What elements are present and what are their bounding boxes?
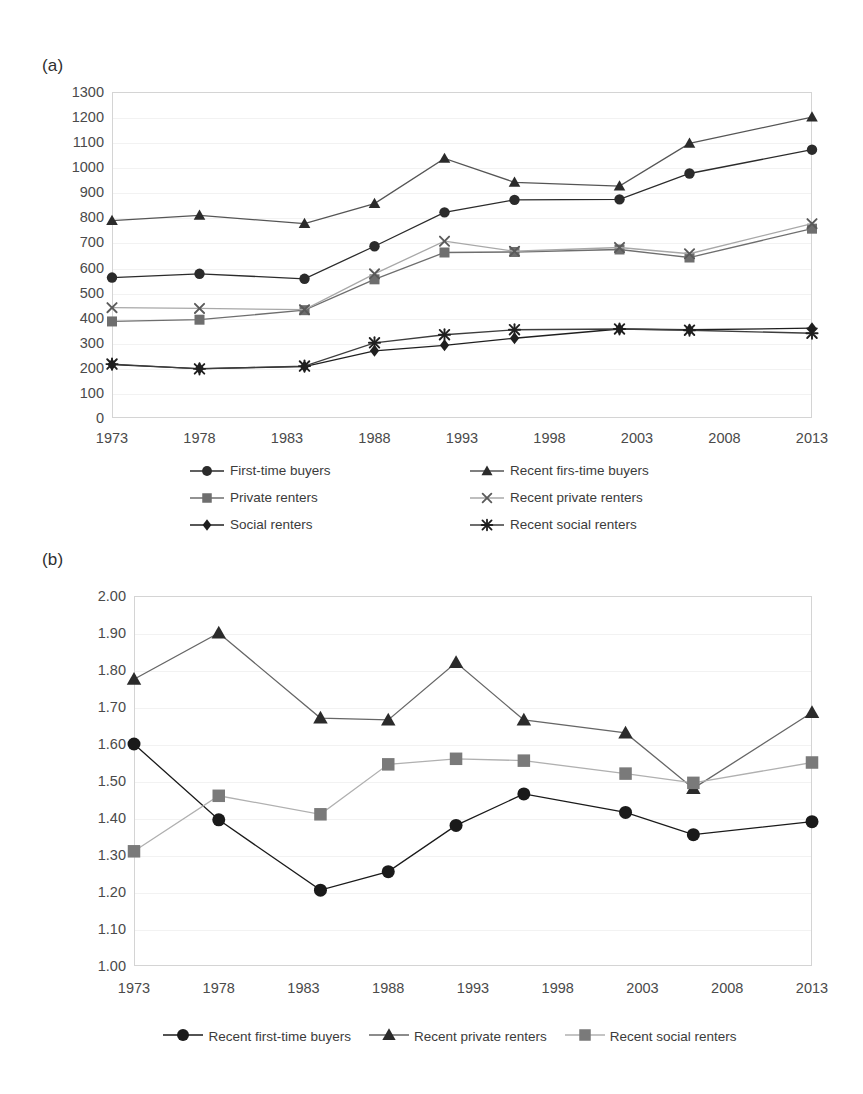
legend-marker-star-icon	[470, 518, 504, 532]
series-2	[128, 753, 819, 858]
y-axis-tick-label: 1.10	[78, 921, 126, 937]
series-0	[128, 738, 819, 897]
series-3	[107, 219, 816, 314]
y-axis-tick-label: 1.80	[78, 662, 126, 678]
legend-item[interactable]: Private renters	[190, 490, 470, 505]
legend-item[interactable]: Recent firs-time buyers	[470, 463, 750, 478]
y-axis-tick-label: 1.60	[78, 736, 126, 752]
x-axis-tick-label: 1993	[446, 430, 478, 446]
x-axis-tick-label: 2008	[711, 980, 743, 996]
legend-marker-diamond-icon	[190, 518, 224, 532]
x-axis-tick-label: 2003	[621, 430, 653, 446]
legend-label: First-time buyers	[230, 463, 331, 478]
legend-item[interactable]: Recent social renters	[470, 517, 750, 532]
x-axis-tick-label: 1998	[533, 430, 565, 446]
x-axis-tick-label: 1973	[96, 430, 128, 446]
y-axis-tick-label: 300	[60, 335, 104, 351]
y-axis-tick-label: 800	[60, 209, 104, 225]
y-axis-tick-label: 1.00	[78, 958, 126, 974]
x-axis-tick-label: 2008	[708, 430, 740, 446]
series-layer	[134, 596, 812, 966]
legend-item[interactable]: Recent social renters	[565, 1028, 737, 1044]
legend-label: Social renters	[230, 517, 313, 532]
x-axis-tick-label: 1988	[372, 980, 404, 996]
y-axis-tick-label: 600	[60, 260, 104, 276]
y-axis-tick-label: 1.70	[78, 699, 126, 715]
y-axis-tick-label: 400	[60, 310, 104, 326]
series-1	[127, 626, 820, 794]
x-axis-tick-label: 1983	[287, 980, 319, 996]
legend-item[interactable]: Recent first-time buyers	[163, 1028, 351, 1044]
y-axis-tick-label: 1300	[60, 84, 104, 100]
x-axis-tick-label: 1978	[203, 980, 235, 996]
legend-marker-circle-icon	[190, 464, 224, 478]
legend-marker-circle-icon	[163, 1028, 203, 1044]
chart-a-legend: First-time buyersRecent firs-time buyers…	[190, 463, 750, 532]
y-axis-tick-label: 1.30	[78, 847, 126, 863]
series-4	[107, 322, 816, 374]
y-axis-tick-label: 200	[60, 360, 104, 376]
x-axis-tick-label: 1998	[542, 980, 574, 996]
x-axis-tick-label: 2013	[796, 430, 828, 446]
legend-label: Recent social renters	[610, 1029, 737, 1044]
legend-marker-x-icon	[470, 491, 504, 505]
x-axis-tick-label: 1973	[118, 980, 150, 996]
legend-item[interactable]: First-time buyers	[190, 463, 470, 478]
legend-label: Recent first-time buyers	[208, 1029, 351, 1044]
legend-item[interactable]: Recent private renters	[470, 490, 750, 505]
y-axis-tick-label: 1.20	[78, 884, 126, 900]
x-axis-tick-label: 1993	[457, 980, 489, 996]
legend-item[interactable]: Recent private renters	[369, 1028, 547, 1044]
x-axis-tick-label: 1983	[271, 430, 303, 446]
chart-a-plot-wrapper: 0100200300400500600700800900100011001200…	[112, 92, 812, 418]
y-axis-tick-label: 100	[60, 385, 104, 401]
legend-marker-square-icon	[190, 491, 224, 505]
y-axis-tick-label: 1.40	[78, 810, 126, 826]
legend-label: Recent firs-time buyers	[510, 463, 649, 478]
x-axis-tick-label: 1988	[358, 430, 390, 446]
legend-label: Recent social renters	[510, 517, 637, 532]
x-axis-tick-label: 2013	[796, 980, 828, 996]
legend-label: Private renters	[230, 490, 318, 505]
series-layer	[112, 92, 812, 418]
x-axis-tick-label: 1978	[183, 430, 215, 446]
legend-label: Recent private renters	[414, 1029, 547, 1044]
panel-b-label: (b)	[42, 550, 63, 570]
y-axis-tick-label: 900	[60, 184, 104, 200]
panel-a-label: (a)	[42, 56, 63, 76]
y-axis-tick-label: 700	[60, 234, 104, 250]
y-axis-tick-label: 1.50	[78, 773, 126, 789]
y-axis-tick-label: 1200	[60, 109, 104, 125]
y-axis-tick-label: 1100	[60, 134, 104, 150]
chart-b-legend: Recent first-time buyersRecent private r…	[100, 1028, 800, 1044]
legend-label: Recent private renters	[510, 490, 643, 505]
y-axis-tick-label: 1.90	[78, 625, 126, 641]
y-axis-tick-label: 1000	[60, 159, 104, 175]
legend-marker-triangle-icon	[470, 464, 504, 478]
legend-item[interactable]: Social renters	[190, 517, 470, 532]
chart-b-plot-wrapper: 1.001.101.201.301.401.501.601.701.801.90…	[134, 596, 812, 966]
y-axis-tick-label: 2.00	[78, 588, 126, 604]
legend-marker-triangle-icon	[369, 1028, 409, 1044]
series-5	[106, 323, 817, 374]
series-0	[107, 144, 817, 284]
legend-marker-square-icon	[565, 1028, 605, 1044]
y-axis-tick-label: 500	[60, 285, 104, 301]
y-axis-tick-label: 0	[60, 410, 104, 426]
x-axis-tick-label: 2003	[626, 980, 658, 996]
